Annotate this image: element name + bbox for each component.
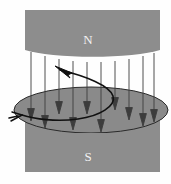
south-pole-label: S bbox=[84, 149, 91, 164]
field-line bbox=[140, 56, 147, 126]
field-line bbox=[151, 53, 158, 122]
north-pole-label: N bbox=[83, 32, 93, 47]
coil-plane-disk bbox=[14, 87, 168, 133]
figure-canvas: N S bbox=[0, 0, 171, 184]
lower-block-front-cover bbox=[25, 133, 160, 172]
current-direction-arrowhead bbox=[55, 66, 72, 78]
field-line bbox=[28, 52, 35, 121]
magnetic-field-figure: N S bbox=[0, 0, 171, 184]
